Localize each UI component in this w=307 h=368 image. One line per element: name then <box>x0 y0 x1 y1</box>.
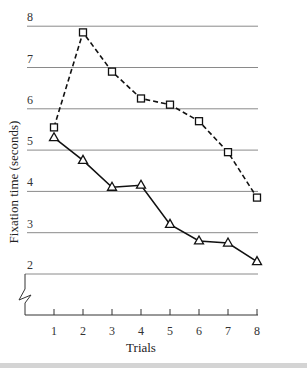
y-axis-label: Fixation time (seconds) <box>6 121 21 244</box>
square-series-line <box>54 32 257 197</box>
square-marker <box>138 95 145 102</box>
y-axis-break <box>19 274 258 315</box>
square-marker <box>80 29 87 36</box>
x-tick-label: 7 <box>225 324 231 338</box>
triangle-marker <box>137 180 146 188</box>
triangle-marker <box>79 155 88 163</box>
x-tick-label: 3 <box>109 324 115 338</box>
y-tick-label: 4 <box>27 175 33 189</box>
triangle-marker <box>50 133 59 141</box>
square-marker <box>109 68 116 75</box>
gridlines <box>25 26 258 274</box>
square-marker <box>196 118 203 125</box>
y-tick-label: 2 <box>27 258 33 272</box>
y-tick-label: 3 <box>27 217 33 231</box>
square-marker <box>225 149 232 156</box>
x-ticks: 12345678 <box>51 309 260 338</box>
x-tick-label: 4 <box>138 324 144 338</box>
x-axis-label: Trials <box>126 340 156 355</box>
y-tick-label: 7 <box>27 52 33 66</box>
axes <box>19 274 258 315</box>
square-marker <box>51 124 58 131</box>
bottom-bar <box>0 363 307 368</box>
x-tick-label: 5 <box>167 324 173 338</box>
data-series <box>50 29 262 265</box>
y-tick-label: 5 <box>27 134 33 148</box>
x-tick-label: 1 <box>51 324 57 338</box>
x-tick-label: 2 <box>80 324 86 338</box>
x-tick-label: 8 <box>254 324 260 338</box>
triangle-marker <box>253 257 262 265</box>
square-marker <box>254 194 261 201</box>
line-chart: 2345678 12345678 Trials Fixation time (s… <box>0 0 307 368</box>
square-marker <box>167 101 174 108</box>
y-tick-label: 8 <box>27 10 33 24</box>
x-tick-label: 6 <box>196 324 202 338</box>
y-tick-label: 6 <box>27 93 33 107</box>
